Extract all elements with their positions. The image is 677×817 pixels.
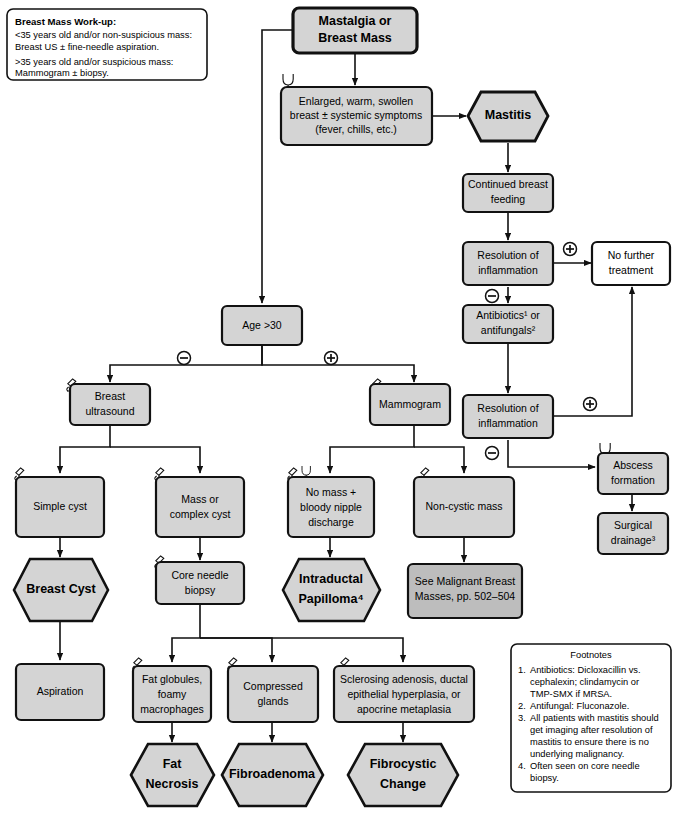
node-fibrocystic-line-0: Fibrocystic — [370, 757, 437, 771]
footnotes-title: Footnotes — [570, 650, 612, 660]
edge-start-to-age30 — [262, 30, 293, 303]
node-antibiotics[interactable]: Antibiotics¹ or antifungals² — [463, 305, 553, 343]
node-abscess-line-1: formation — [611, 474, 655, 486]
node-mastitis[interactable]: Mastitis — [468, 92, 548, 141]
node-fat-necrosis[interactable]: Fat Necrosis — [131, 744, 214, 806]
node-intraductal-papilloma[interactable]: Intraductal Papilloma⁴ — [283, 559, 380, 621]
node-abscess-line-0: Abscess — [613, 459, 653, 471]
node-seemalignant-line-1: Masses, pp. 502–504 — [415, 590, 516, 602]
node-enlarged-line-1: breast ± systemic symptoms — [290, 109, 422, 121]
node-enlarged-line-0: Enlarged, warm, swollen — [299, 95, 414, 107]
node-abscess-formation[interactable]: Abscess formation — [598, 453, 668, 494]
edge-core-to-sclerosing — [200, 638, 403, 662]
edge-resolution2-minus — [508, 440, 595, 467]
node-intraductal-line-1: Papilloma⁴ — [298, 592, 363, 606]
node-fibrocystic-line-1: Change — [380, 777, 426, 791]
node-fatglob-line-0: Fat globules, — [142, 673, 202, 685]
node-enlarged-line-2: (fever, chills, etc.) — [315, 123, 397, 135]
footnote-3-num: 3. — [518, 713, 526, 723]
edge-resolution2-plus — [553, 287, 632, 416]
node-masscomplex-line-0: Mass or — [181, 493, 219, 505]
node-nomass-line-2: discharge — [308, 516, 354, 528]
node-sclerosing-adenosis[interactable]: Sclerosing adenosis, ductal epithelial h… — [334, 666, 474, 722]
footnote-3-line-2: mastitis to ensure there is no — [530, 737, 649, 747]
edge-mammo-to-noncystic — [414, 447, 464, 473]
node-core-needle-biopsy[interactable]: Core needle biopsy — [156, 562, 244, 604]
footnote-3-line-1: get imaging after resolution of — [530, 725, 653, 735]
edge-us-to-simplecyst — [60, 424, 110, 473]
node-fatglob-line-2: macrophages — [140, 703, 204, 715]
node-continued-feeding[interactable]: Continued breast feeding — [463, 174, 553, 212]
edge-us-to-masscomplex — [110, 447, 200, 473]
node-antibiotics-line-1: antifungals² — [481, 324, 536, 336]
node-nofurther-line-0: No further — [608, 249, 655, 261]
node-fatnecrosis-line-0: Fat — [163, 757, 183, 771]
node-sclerosing-line-2: apocrine metaplasia — [357, 703, 451, 715]
footnote-1-line-0: Antibiotics: Dicloxacillin vs. — [530, 665, 641, 675]
node-sclerosing-line-1: epithelial hyperplasia, or — [347, 688, 461, 700]
node-fatglob-line-1: foamy — [158, 688, 187, 700]
node-no-mass-bloody-discharge[interactable]: No mass + bloody nipple discharge — [288, 477, 374, 537]
node-aspiration[interactable]: Aspiration — [16, 664, 104, 720]
node-mammogram[interactable]: Mammogram — [370, 384, 450, 425]
edge-age30-plus — [262, 345, 414, 382]
node-nomass-line-0: No mass + — [306, 486, 356, 498]
footnote-4-num: 4. — [518, 761, 526, 771]
node-no-further-treatment[interactable]: No further treatment — [592, 242, 670, 285]
node-fatnecrosis-line-1: Necrosis — [146, 777, 199, 791]
node-us-line-0: Breast — [95, 390, 125, 402]
node-seemalignant-line-0: See Malignant Breast — [415, 575, 515, 587]
footnote-2-line-0: Antifungal: Fluconazole. — [530, 701, 629, 711]
node-surgical-drainage[interactable]: Surgical drainage³ — [598, 513, 668, 554]
node-non-cystic-mass[interactable]: Non-cystic mass — [414, 477, 514, 537]
node-core-line-0: Core needle — [171, 569, 228, 581]
node-breast-ultrasound[interactable]: Breast ultrasound — [70, 384, 150, 425]
node-breastcyst-label: Breast Cyst — [26, 582, 96, 596]
node-intraductal-line-0: Intraductal — [299, 572, 363, 586]
node-simple-cyst[interactable]: Simple cyst — [16, 477, 104, 537]
footnote-2-num: 2. — [518, 701, 526, 711]
footnote-1-line-2: TMP-SMX if MRSA. — [530, 689, 612, 699]
node-sclerosing-line-0: Sclerosing adenosis, ductal — [340, 673, 468, 685]
workup-note-heading: Breast Mass Work-up: — [15, 16, 116, 27]
sign-age30-plus — [325, 352, 338, 365]
node-enlarged[interactable]: Enlarged, warm, swollen breast ± systemi… — [281, 87, 432, 145]
footnote-1-num: 1. — [518, 665, 526, 675]
sign-resolution1-plus — [564, 243, 577, 256]
node-fibrocystic-change[interactable]: Fibrocystic Change — [348, 744, 458, 806]
node-resolution2-line-1: inflammation — [478, 417, 538, 429]
node-compressed-glands[interactable]: Compressed glands — [228, 666, 318, 722]
flowchart-canvas: Breast Mass Work-up: <35 years old and/o… — [0, 0, 677, 817]
node-fat-globules[interactable]: Fat globules, foamy macrophages — [133, 666, 211, 722]
node-mammogram-label: Mammogram — [379, 398, 441, 410]
node-drainage-line-1: drainage³ — [611, 534, 656, 546]
node-compressed-line-1: glands — [258, 695, 289, 707]
edge-core-to-compressed — [200, 638, 272, 662]
node-fibroadenoma[interactable]: Fibroadenoma — [222, 744, 323, 806]
node-resolution-inflammation-2[interactable]: Resolution of inflammation — [463, 395, 553, 438]
node-see-malignant-breast-masses[interactable]: See Malignant Breast Masses, pp. 502–504 — [408, 564, 522, 618]
footnote-1-line-1: cephalexin; clindamycin or — [530, 677, 639, 687]
node-fibroadenoma-label: Fibroadenoma — [229, 767, 316, 781]
node-start-line-1: Breast Mass — [318, 31, 392, 45]
flowchart-svg: Breast Mass Work-up: <35 years old and/o… — [0, 0, 677, 817]
node-age-over-30[interactable]: Age >30 — [222, 306, 302, 345]
footnote-3-line-0: All patients with mastitis should — [530, 713, 659, 723]
workup-note-line-2: >35 years old and/or suspicious mass: — [15, 57, 173, 67]
node-start[interactable]: Mastalgia or Breast Mass — [293, 8, 417, 53]
footnote-3-line-3: underlying malignancy. — [530, 749, 624, 759]
sign-resolution1-minus — [486, 290, 499, 303]
node-age30-label: Age >30 — [242, 319, 282, 331]
node-resolution1-line-0: Resolution of — [477, 249, 538, 261]
footnotes-box: Footnotes 1. Antibiotics: Dicloxacillin … — [511, 644, 671, 792]
edge-mammo-to-nomass — [330, 424, 414, 473]
node-start-line-0: Mastalgia or — [319, 14, 392, 28]
workup-note-line-0: <35 years old and/or non-suspicious mass… — [15, 30, 192, 40]
footnote-4-line-1: biopsy. — [530, 773, 559, 783]
node-resolution2-line-0: Resolution of — [477, 402, 538, 414]
edge-core-to-fat — [172, 602, 200, 662]
node-drainage-line-0: Surgical — [614, 519, 652, 531]
node-breast-cyst[interactable]: Breast Cyst — [14, 559, 108, 621]
node-resolution-inflammation-1[interactable]: Resolution of inflammation — [463, 242, 553, 285]
node-mass-or-complex-cyst[interactable]: Mass or complex cyst — [156, 477, 244, 537]
